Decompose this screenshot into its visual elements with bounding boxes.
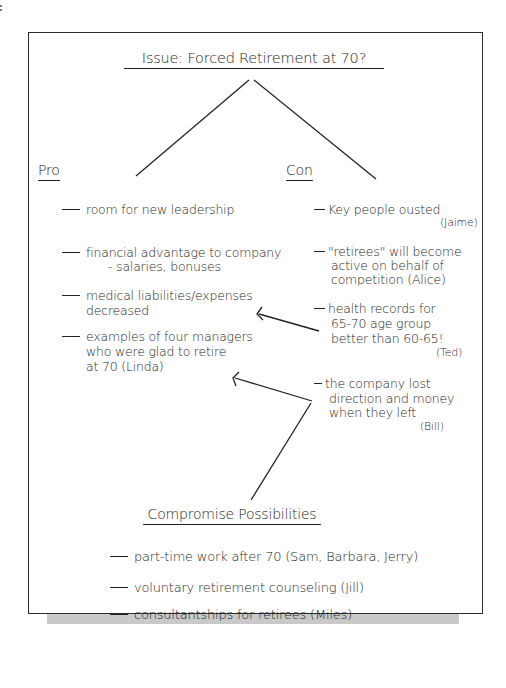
con-item-continuation: 65-70 age group [331, 317, 431, 331]
pro-item-text: financial advantage to company [86, 245, 281, 260]
con-item-continuation: when they left [329, 406, 416, 420]
pro-item: medical liabilities/expenses [62, 289, 253, 303]
con-item-continuation: competition (Alice) [331, 273, 446, 287]
pro-item-continuation: at 70 (Linda) [86, 360, 164, 374]
pro-item-text: room for new leadership [86, 202, 234, 217]
compromise-item: consultantships for retirees (Miles) [110, 608, 352, 623]
pro-item: examples of four managers [62, 330, 253, 344]
issue-title: Issue: Forced Retirement at 70? [124, 50, 384, 69]
pro-item-continuation: who were glad to retire [86, 345, 226, 359]
bullet-dash [62, 336, 80, 337]
con-item-continuation: better than 60-65! [331, 332, 443, 346]
compromise-item-text: consultantships for retirees (Miles) [134, 607, 352, 622]
compromise-item-text: part-time work after 70 (Sam, Barbara, J… [134, 549, 418, 564]
compromise-heading: Compromise Possibilities [143, 507, 321, 525]
bullet-dash [314, 209, 325, 210]
con-item-attribution: (Ted) [436, 347, 462, 359]
bullet-dash [62, 252, 80, 253]
bullet-dash [314, 308, 325, 309]
bullet-dash [62, 209, 80, 210]
bullet-dash [62, 295, 80, 296]
con-item-text: Key people ousted [328, 202, 440, 217]
con-item-continuation: active on behalf of [331, 259, 444, 273]
pro-item-text: medical liabilities/expenses [86, 288, 253, 303]
con-item-text: health records for [328, 301, 436, 316]
bullet-dash [314, 251, 325, 252]
con-item-attribution: (Bill) [420, 421, 444, 433]
bullet-dash [110, 556, 128, 557]
bullet-dash [314, 383, 322, 384]
corner-mark [0, 5, 5, 11]
con-item-attribution: (Jaime) [440, 217, 478, 229]
con-heading: Con [286, 163, 313, 181]
bullet-dash [110, 587, 128, 588]
pro-item: room for new leadership [62, 203, 234, 217]
con-item: Key people ousted [314, 203, 440, 217]
bullet-dash [110, 614, 128, 615]
con-item-text: "retirees" will become [328, 244, 461, 259]
con-item: "retirees" will become [314, 245, 461, 259]
compromise-item: part-time work after 70 (Sam, Barbara, J… [110, 550, 418, 565]
pro-item-text: examples of four managers [86, 329, 253, 344]
con-item: the company lost [314, 377, 430, 391]
pro-item-continuation: decreased [86, 304, 149, 318]
pro-item-subpoint: - salaries, bonuses [108, 260, 221, 274]
con-item: health records for [314, 302, 436, 316]
pro-heading: Pro [38, 163, 60, 181]
compromise-item: voluntary retirement counseling (Jill) [110, 581, 364, 596]
compromise-item-text: voluntary retirement counseling (Jill) [134, 580, 364, 595]
con-item-continuation: direction and money [329, 392, 454, 406]
pro-item: financial advantage to company [62, 246, 281, 260]
con-item-text: the company lost [325, 376, 430, 391]
